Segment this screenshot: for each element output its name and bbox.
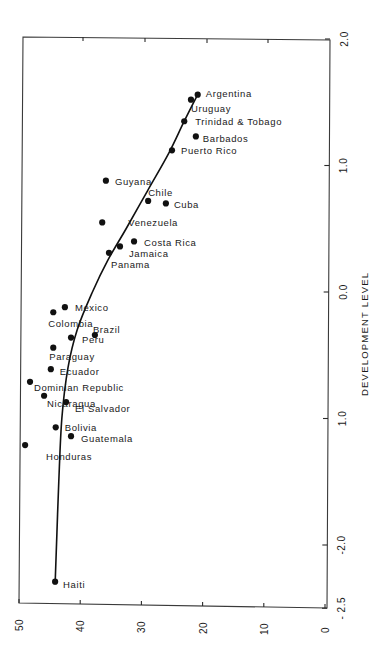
right-tick-label: 1.0 <box>338 158 349 173</box>
point-label: Puerto Rico <box>181 145 237 156</box>
bottom-tick-label: 30 <box>136 621 147 633</box>
data-point: Guyana <box>103 176 152 187</box>
data-point: Argentina <box>195 88 252 99</box>
data-point: Ecuador <box>48 366 100 377</box>
point-label: Dominian Republic <box>34 382 124 393</box>
data-point: Haiti <box>52 579 85 591</box>
point-marker <box>48 366 54 372</box>
point-label: Paraguay <box>49 351 94 362</box>
data-point: Honduras <box>22 442 92 462</box>
point-marker <box>27 379 33 385</box>
right-tick-label: 2.0 <box>339 31 350 46</box>
bottom-tick-label: 10 <box>259 623 270 635</box>
point-label: Jamaica <box>129 248 169 259</box>
point-label: Venezuela <box>128 217 178 228</box>
point-marker <box>63 399 69 405</box>
point-label: Panama <box>111 259 150 270</box>
y-axis-title: DEVELOPMENT LEVEL <box>359 272 370 396</box>
point-label: Guatemala <box>81 433 133 444</box>
fitted-curve <box>55 92 199 584</box>
point-marker <box>188 97 194 103</box>
point-label: Honduras <box>46 451 92 462</box>
scatter-chart: 50403020100 2.01.00.01.0-2.0- 2.5 Argent… <box>0 0 382 660</box>
point-marker <box>131 238 137 244</box>
point-marker <box>195 92 201 98</box>
bottom-axis-ticks: 50403020100 <box>14 599 331 635</box>
point-label: Haiti <box>63 579 85 590</box>
point-marker <box>106 250 112 256</box>
point-label: El Salvador <box>75 403 130 414</box>
data-point: Mexico <box>62 302 109 313</box>
point-marker <box>50 345 56 351</box>
data-point: Trinidad & Tobago <box>181 116 282 127</box>
point-marker <box>52 579 58 585</box>
data-points: ArgentinaUruguayTrinidad & TobagoBarbado… <box>22 88 282 590</box>
data-point: Cuba <box>163 199 199 210</box>
point-marker <box>68 433 74 439</box>
bottom-tick-label: 0 <box>320 627 331 633</box>
right-axis-ticks: 2.01.00.01.0-2.0- 2.5 <box>322 31 350 619</box>
point-marker <box>99 219 105 225</box>
point-marker <box>193 133 199 139</box>
point-marker <box>53 424 59 430</box>
bottom-tick-label: 20 <box>198 622 209 634</box>
point-marker <box>62 304 68 310</box>
right-tick-label: 1.0 <box>337 411 348 426</box>
point-marker <box>50 309 56 315</box>
data-point: Costa Rica <box>131 237 197 248</box>
point-marker <box>68 334 74 340</box>
point-label: Uruguay <box>191 103 231 114</box>
data-point: Guatemala <box>68 433 133 444</box>
right-tick-label: -2.0 <box>336 535 347 554</box>
point-label: Ecuador <box>60 366 100 377</box>
point-label: Brazil <box>93 324 120 335</box>
point-marker <box>22 442 28 448</box>
data-point: Bolivia <box>53 422 97 433</box>
point-label: Argentina <box>206 88 252 99</box>
bottom-tick-label: 40 <box>75 620 86 632</box>
point-marker <box>117 243 123 249</box>
point-label: Guyana <box>115 176 152 187</box>
point-label: Colombia <box>48 318 93 329</box>
point-label: Chile <box>148 187 173 198</box>
regression-curve <box>55 92 199 584</box>
data-point: Puerto Rico <box>169 145 237 156</box>
point-label: Cuba <box>174 199 199 210</box>
right-tick-label: 0.0 <box>338 284 349 299</box>
data-point: Uruguay <box>188 97 231 115</box>
point-label: Bolivia <box>65 422 97 433</box>
right-tick-label: - 2.5 <box>336 597 347 620</box>
bottom-tick-label: 50 <box>14 619 25 631</box>
data-point: Chile <box>145 187 173 204</box>
data-point: Dominian Republic <box>27 379 124 394</box>
point-label: Trinidad & Tobago <box>195 116 282 127</box>
point-label: Barbados <box>203 133 248 144</box>
point-marker <box>163 200 169 206</box>
point-label: Costa Rica <box>144 237 197 248</box>
point-marker <box>145 198 151 204</box>
data-point: Venezuela <box>99 217 178 228</box>
point-label: Mexico <box>75 302 109 313</box>
point-marker <box>103 178 109 184</box>
point-label: Peru <box>82 334 104 345</box>
point-marker <box>181 118 187 124</box>
point-marker <box>169 147 175 153</box>
data-point: Barbados <box>193 133 249 144</box>
